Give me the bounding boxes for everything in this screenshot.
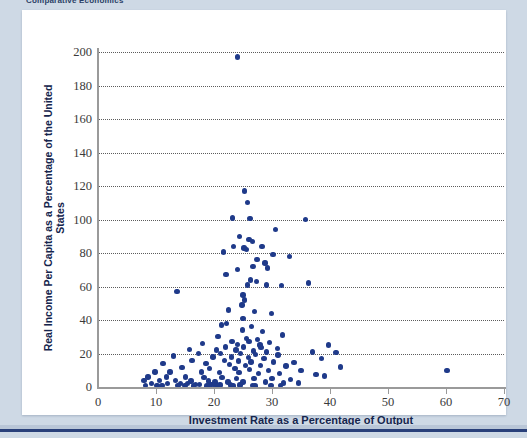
data-point — [280, 332, 285, 337]
data-point — [254, 279, 259, 284]
data-point — [149, 381, 154, 386]
gridline — [98, 86, 504, 87]
data-point — [207, 366, 212, 371]
data-point — [164, 374, 169, 379]
data-point — [264, 282, 269, 287]
x-axis-spine — [98, 387, 506, 389]
data-point — [236, 370, 241, 375]
data-point — [245, 200, 250, 205]
data-point — [240, 316, 245, 321]
data-point — [245, 282, 250, 287]
data-point — [226, 307, 231, 312]
data-point — [275, 346, 280, 351]
x-tick-label: 30 — [252, 395, 292, 410]
data-point — [174, 289, 179, 294]
data-point — [253, 352, 258, 357]
data-point — [254, 257, 259, 262]
y-axis-title: Real Income Per Capita as a Percentage o… — [42, 68, 66, 368]
gridline — [98, 354, 504, 355]
data-point — [219, 322, 224, 327]
data-point — [306, 280, 311, 285]
x-tick-mark — [214, 389, 215, 394]
data-point — [230, 215, 235, 220]
data-point — [258, 345, 263, 350]
data-point — [288, 377, 293, 382]
data-point — [270, 252, 275, 257]
data-point — [244, 247, 249, 252]
x-tick-label: 60 — [426, 395, 466, 410]
data-point — [258, 363, 263, 368]
data-point — [273, 227, 278, 232]
data-point — [271, 359, 276, 364]
data-point — [249, 324, 254, 329]
data-point — [165, 381, 170, 386]
data-point — [303, 217, 308, 222]
data-point — [218, 351, 223, 356]
data-point — [189, 358, 194, 363]
gridline — [98, 253, 504, 254]
data-point — [235, 54, 240, 59]
data-point — [224, 321, 229, 326]
y-axis-spine — [97, 48, 99, 389]
data-point — [234, 376, 239, 381]
data-point — [338, 364, 343, 369]
data-point — [291, 360, 296, 365]
data-point — [265, 265, 270, 270]
data-point — [313, 372, 318, 377]
data-point — [229, 339, 234, 344]
data-point — [252, 309, 257, 314]
x-tick-mark — [272, 389, 273, 394]
data-point — [242, 188, 247, 193]
gridline — [98, 320, 504, 321]
data-point — [279, 283, 284, 288]
data-point — [160, 361, 165, 366]
bottom-rule — [0, 429, 527, 432]
data-point — [250, 239, 255, 244]
x-tick-label: 50 — [368, 395, 408, 410]
data-point — [322, 373, 327, 378]
data-point — [248, 359, 253, 364]
data-point — [235, 342, 240, 347]
figure-card: 020406080100120140160180200 010203040506… — [22, 10, 506, 415]
x-tick-mark — [446, 389, 447, 394]
data-point — [239, 302, 244, 307]
data-point — [235, 267, 240, 272]
y-tick-label: 0 — [56, 380, 92, 395]
data-point — [277, 371, 282, 376]
data-point — [256, 371, 261, 376]
data-point — [238, 351, 243, 356]
data-point — [196, 351, 201, 356]
data-point — [241, 344, 246, 349]
x-tick-label: 0 — [78, 395, 118, 410]
data-point — [251, 376, 256, 381]
data-point — [215, 334, 220, 339]
data-point — [240, 327, 245, 332]
data-point — [246, 339, 251, 344]
data-point — [283, 363, 288, 368]
data-point — [310, 349, 315, 354]
x-tick-label: 70 — [484, 395, 524, 410]
x-tick-mark — [156, 389, 157, 394]
data-point — [231, 244, 236, 249]
data-point — [223, 272, 228, 277]
data-point — [210, 354, 215, 359]
data-point — [269, 376, 274, 381]
gridline — [98, 153, 504, 154]
data-point — [333, 350, 338, 355]
running-head: Comparative Economics — [26, 0, 326, 5]
data-point — [237, 234, 242, 239]
data-point — [287, 254, 292, 259]
data-point — [267, 340, 272, 345]
scatter-plot-area — [98, 52, 504, 387]
gridline — [98, 186, 504, 187]
data-point — [298, 368, 303, 373]
x-tick-label: 10 — [136, 395, 176, 410]
data-point — [187, 347, 192, 352]
data-point — [269, 311, 274, 316]
data-point — [275, 352, 280, 357]
gridline — [98, 52, 504, 53]
data-point — [266, 368, 271, 373]
gridline — [98, 220, 504, 221]
data-point — [222, 358, 227, 363]
data-point — [219, 375, 224, 380]
